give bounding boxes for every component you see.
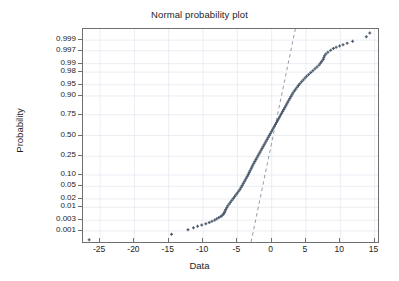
y-tick-mark [78, 155, 82, 156]
plot-area [82, 28, 379, 243]
y-tick-label: 0.997 [24, 46, 76, 54]
y-tick-label: 0.95 [24, 80, 76, 88]
data-layer [83, 29, 378, 242]
x-tick-mark [133, 238, 134, 242]
y-tick-mark [78, 84, 82, 85]
y-tick-label: 0.02 [24, 194, 76, 202]
y-tick-mark [78, 95, 82, 96]
y-tick-label: 0.10 [24, 170, 76, 178]
x-tick-mark [99, 238, 100, 242]
x-tick-mark [271, 238, 272, 242]
y-tick-label: 0.25 [24, 151, 76, 159]
y-tick-label: 0.003 [24, 215, 76, 223]
y-tick-mark [78, 63, 82, 64]
y-tick-mark [78, 50, 82, 51]
normal-probability-plot-figure: Normal probability plot 0.0010.0030.010.… [0, 0, 399, 281]
y-tick-label: 0.98 [24, 67, 76, 75]
y-tick-mark [78, 71, 82, 72]
x-tick-label: 15 [354, 245, 394, 254]
x-tick-mark [305, 238, 306, 242]
x-tick-mark [374, 238, 375, 242]
y-tick-label: 0.75 [24, 110, 76, 118]
y-tick-label: 0.05 [24, 181, 76, 189]
x-tick-mark [202, 238, 203, 242]
y-tick-mark [78, 185, 82, 186]
y-tick-label: 0.50 [24, 131, 76, 139]
reference-line [251, 29, 295, 242]
y-tick-mark [78, 219, 82, 220]
y-tick-mark [78, 206, 82, 207]
x-axis-label: Data [0, 260, 399, 271]
data-series [88, 32, 372, 242]
y-tick-label: 0.001 [24, 226, 76, 234]
x-tick-mark [339, 238, 340, 242]
x-tick-mark [168, 238, 169, 242]
y-tick-mark [78, 230, 82, 231]
y-tick-label: 0.90 [24, 91, 76, 99]
page-title: Normal probability plot [0, 9, 399, 20]
y-tick-mark [78, 135, 82, 136]
y-tick-mark [78, 39, 82, 40]
y-tick-label: 0.01 [24, 202, 76, 210]
y-axis-label: Probability [14, 86, 25, 176]
y-tick-label: 0.99 [24, 59, 76, 67]
y-tick-mark [78, 114, 82, 115]
x-tick-mark [236, 238, 237, 242]
y-tick-label: 0.999 [24, 35, 76, 43]
y-tick-mark [78, 174, 82, 175]
y-tick-mark [78, 198, 82, 199]
